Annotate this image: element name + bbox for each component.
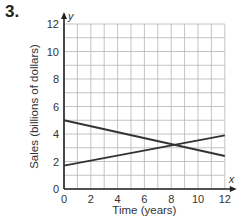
x-tick-label: 12: [219, 193, 231, 205]
x-tick-label: 0: [61, 193, 67, 205]
y-axis-letter: y: [67, 10, 75, 22]
y-tick-label: 6: [53, 101, 59, 113]
x-axis-arrow-icon: [230, 186, 237, 192]
x-tick-label: 10: [192, 193, 204, 205]
y-tick-label: 2: [53, 156, 59, 168]
y-tick-label: 10: [47, 46, 59, 58]
x-axis-title: Time (years): [112, 204, 176, 216]
line-chart: 024681012024681012xyTime (years)Sales (b…: [0, 0, 240, 218]
x-tick-label: 2: [88, 193, 94, 205]
y-axis-arrow-icon: [61, 12, 67, 19]
x-axis-letter: x: [228, 173, 235, 185]
y-tick-label: 4: [53, 128, 59, 140]
y-tick-label: 8: [53, 73, 59, 85]
y-axis-title: Sales (billions of dollars): [28, 44, 40, 169]
y-tick-label: 12: [47, 18, 59, 30]
y-tick-label: 0: [53, 183, 59, 195]
